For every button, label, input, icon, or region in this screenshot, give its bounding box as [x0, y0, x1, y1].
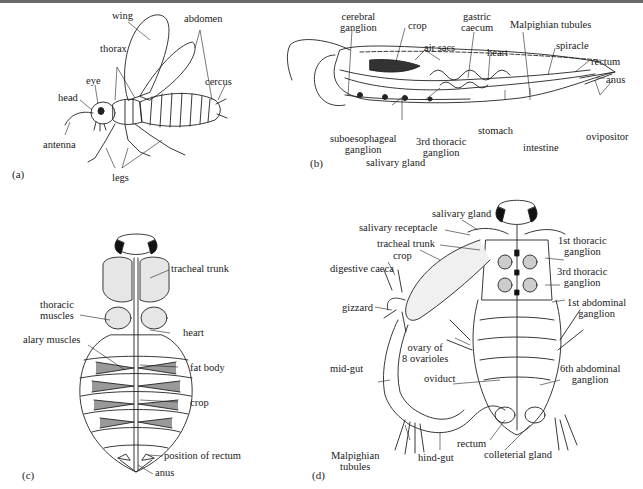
label-ovary-of-8-ovarioles: ovary of 8 ovarioles	[402, 342, 448, 364]
label-eye: eye	[86, 75, 101, 86]
label-cerebral-ganglion: cerebral ganglion	[340, 11, 377, 33]
label-thorax: thorax	[100, 43, 127, 54]
label-salivary-receptacle: salivary receptacle	[359, 222, 437, 233]
label-crop: crop	[190, 397, 209, 408]
label-salivary-gland: salivary gland	[366, 157, 425, 168]
label-stomach: stomach	[478, 125, 513, 136]
label-1st-thoracic-ganglion: 1st thoracic ganglion	[558, 235, 607, 257]
label-thoracic-muscles: thoracic muscles	[40, 299, 74, 321]
label-malpighian-tubules: Malpighian tubules	[510, 19, 591, 30]
label-crop: crop	[393, 250, 412, 261]
label-heart: heart	[487, 47, 508, 58]
label-antenna: antenna	[43, 139, 76, 150]
label-tracheal-trunk: tracheal trunk	[377, 238, 435, 249]
panel-c-tag: (c)	[22, 469, 34, 481]
label-hind-gut: hind-gut	[418, 452, 454, 463]
label-3rd-thoracic-ganglion: 3rd thoracic ganglion	[416, 136, 466, 158]
label-intestine: intestine	[523, 142, 559, 153]
label-colleterial-gland: colleterial gland	[484, 449, 552, 460]
label-crop: crop	[408, 20, 427, 31]
label-salivary-gland: salivary gland	[432, 208, 491, 219]
label-gizzard: gizzard	[342, 302, 373, 313]
label-fat-body: fat body	[190, 362, 225, 373]
label-3rd-thoracic-ganglion: 3rd thoracic ganglion	[557, 266, 607, 288]
label-spiracle: spiracle	[556, 40, 589, 51]
label-6th-abdominal-ganglion: 6th abdominal ganglion	[560, 363, 620, 385]
label-tracheal-trunk: tracheal trunk	[171, 263, 229, 274]
label-alary-muscles: alary muscles	[23, 334, 80, 345]
label-digestive-caeca: digestive caeca	[330, 263, 394, 274]
label-1st-abdominal-ganglion: 1st abdominal ganglion	[567, 297, 626, 319]
panel-d-tag: (d)	[312, 469, 325, 481]
label-heart: heart	[183, 327, 204, 338]
label-suboesophageal-ganglion: suboesophageal ganglion	[330, 133, 396, 155]
insect-anatomy-figure: wing abdomen thorax eye head cercus ante…	[0, 0, 643, 489]
label-legs: legs	[112, 172, 129, 183]
label-cercus: cercus	[205, 76, 232, 87]
label-mid-gut: mid-gut	[330, 363, 363, 374]
label-malpighian-tubules: Malpighian tubules	[331, 450, 379, 472]
label-head: head	[58, 92, 78, 103]
label-ovipositor: ovipositor	[586, 131, 629, 142]
label-oviduct: oviduct	[424, 373, 456, 384]
label-anus: anus	[155, 467, 174, 478]
label-rectum: rectum	[457, 438, 486, 449]
label-position-of-rectum: position of rectum	[164, 450, 241, 461]
label-air-sacs: air sacs	[424, 42, 455, 53]
label-anus: anus	[606, 74, 625, 85]
label-abdomen: abdomen	[184, 13, 223, 24]
panel-b-tag: (b)	[310, 157, 323, 169]
label-wing: wing	[112, 10, 133, 21]
anatomy-drawings	[0, 0, 643, 489]
panel-a-tag: (a)	[12, 168, 24, 180]
label-rectum: rectum	[591, 56, 620, 67]
label-gastric-caecum: gastric caecum	[461, 11, 493, 33]
